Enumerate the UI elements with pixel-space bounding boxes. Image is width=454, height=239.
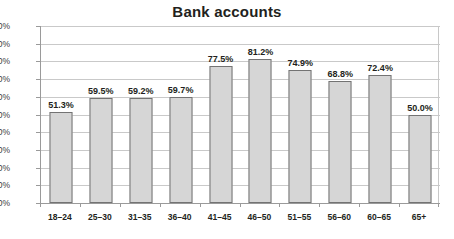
bar-value-label: 74.9% — [288, 58, 314, 68]
x-axis-tick-mark — [160, 203, 161, 207]
bar-value-label: 81.2% — [248, 47, 274, 57]
x-axis-tick-label: 36–40 — [168, 212, 192, 222]
y-axis-tick-label: 60% — [0, 92, 10, 102]
bar-group[interactable]: 81.2% — [241, 26, 281, 203]
x-axis-tick-label: 65+ — [412, 212, 426, 222]
x-axis-tick-mark — [200, 203, 201, 207]
x-axis-tick-label: 31–35 — [128, 212, 152, 222]
bar-group[interactable]: 74.9% — [280, 26, 320, 203]
y-axis-tick-label: 30% — [0, 145, 10, 155]
y-axis-tick-label: 80% — [0, 56, 10, 66]
bar[interactable] — [289, 70, 312, 203]
bar[interactable] — [209, 66, 232, 203]
bar[interactable] — [329, 81, 352, 203]
plot-area: 51.3%59.5%59.2%59.7%77.5%81.2%74.9%68.8%… — [40, 26, 439, 203]
x-axis-tick-label: 51–55 — [288, 212, 312, 222]
x-axis-tick-mark — [399, 203, 400, 207]
bar-chart: Bank accounts 100%90%80%70%60%50%40%30%2… — [0, 0, 454, 239]
x-axis-tick-mark — [279, 203, 280, 207]
bar[interactable] — [129, 98, 152, 203]
bar[interactable] — [409, 115, 432, 204]
bar-value-label: 59.7% — [168, 85, 194, 95]
bar-group[interactable]: 77.5% — [201, 26, 241, 203]
y-axis-tick-label: 10% — [0, 180, 10, 190]
bar-value-label: 59.2% — [128, 86, 154, 96]
x-axis-tick-label: 25–30 — [88, 212, 112, 222]
x-axis-tick-mark — [240, 203, 241, 207]
x-axis-tick-mark — [120, 203, 121, 207]
x-axis-tick-label: 60–65 — [367, 212, 391, 222]
bar[interactable] — [89, 98, 112, 203]
x-axis-tick-mark — [40, 203, 41, 207]
bar-group[interactable]: 72.4% — [360, 26, 400, 203]
bar-value-label: 50.0% — [407, 103, 433, 113]
y-axis-tick-label: 0% — [0, 198, 10, 208]
bar-group[interactable]: 59.5% — [81, 26, 121, 203]
x-axis-tick-label: 41–45 — [208, 212, 232, 222]
bar[interactable] — [249, 59, 272, 203]
x-axis-tick-mark — [359, 203, 360, 207]
y-axis-tick-label: 40% — [0, 127, 10, 137]
bar-group[interactable]: 68.8% — [320, 26, 360, 203]
bar[interactable] — [369, 75, 392, 203]
x-axis-tick-label: 46–50 — [248, 212, 272, 222]
y-axis-tick-label: 50% — [0, 110, 10, 120]
bar-value-label: 59.5% — [88, 86, 114, 96]
bar-group[interactable]: 59.2% — [121, 26, 161, 203]
bar[interactable] — [49, 112, 72, 203]
bar-group[interactable]: 51.3% — [41, 26, 81, 203]
y-axis-tick-label: 70% — [0, 74, 10, 84]
bar-value-label: 68.8% — [327, 69, 353, 79]
x-axis-tick-label: 56–60 — [327, 212, 351, 222]
y-axis-tick-label: 90% — [0, 39, 10, 49]
y-axis-tick-label: 20% — [0, 163, 10, 173]
bar[interactable] — [169, 97, 192, 203]
x-axis-tick-label: 18–24 — [48, 212, 72, 222]
bar-value-label: 51.3% — [48, 100, 74, 110]
x-axis-tick-mark — [438, 203, 439, 207]
bar-value-label: 77.5% — [208, 54, 234, 64]
x-axis: 18–2425–3031–3536–4041–4546–5051–5556–60… — [40, 203, 439, 239]
bar-group[interactable]: 59.7% — [161, 26, 201, 203]
x-axis-tick-mark — [319, 203, 320, 207]
bar-value-label: 72.4% — [367, 63, 393, 73]
x-axis-tick-mark — [80, 203, 81, 207]
bar-group[interactable]: 50.0% — [400, 26, 440, 203]
y-axis-tick-label: 100% — [0, 21, 10, 31]
